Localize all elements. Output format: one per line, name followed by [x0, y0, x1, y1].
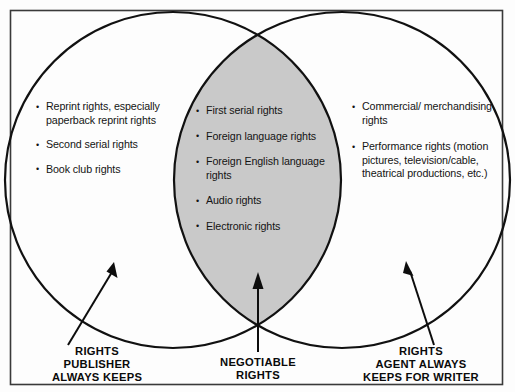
caption-line: RIGHTS [14, 345, 180, 358]
caption-line: PUBLISHER [14, 358, 180, 371]
list-item: Reprint rights, especially paperback rep… [36, 100, 191, 127]
left-region-caption: RIGHTS PUBLISHER ALWAYS KEEPS [14, 345, 180, 385]
right-region-items: Commercial/ merchandising rights Perform… [352, 100, 504, 194]
caption-line: NEGOTIABLE [192, 356, 324, 369]
list-item: Electronic rights [196, 220, 336, 234]
right-region-caption: RIGHTS AGENT ALWAYS KEEPS FOR WRITER [338, 345, 504, 385]
caption-line: KEEPS FOR WRITER [338, 371, 504, 384]
list-item: Audio rights [196, 194, 336, 208]
list-item: Foreign English language rights [196, 155, 336, 182]
list-item: Book club rights [36, 163, 191, 177]
list-item: Foreign language rights [196, 130, 336, 144]
overlap-region-items: First serial rights Foreign language rig… [196, 104, 336, 246]
left-region-items: Reprint rights, especially paperback rep… [36, 100, 191, 176]
list-item: First serial rights [196, 104, 336, 118]
caption-line: AGENT ALWAYS [338, 358, 504, 371]
caption-line: ALWAYS KEEPS [14, 371, 180, 384]
caption-line: RIGHTS [338, 345, 504, 358]
caption-line: RIGHTS [192, 369, 324, 382]
arrow-to-right-region [403, 261, 434, 345]
arrow-to-left-region [68, 262, 118, 345]
overlap-region-caption: NEGOTIABLE RIGHTS [192, 356, 324, 382]
venn-diagram: Reprint rights, especially paperback rep… [0, 0, 515, 392]
list-item: Second serial rights [36, 138, 191, 152]
list-item: Commercial/ merchandising rights [352, 100, 504, 127]
list-item: Performance rights (motion pictures, tel… [352, 140, 504, 181]
